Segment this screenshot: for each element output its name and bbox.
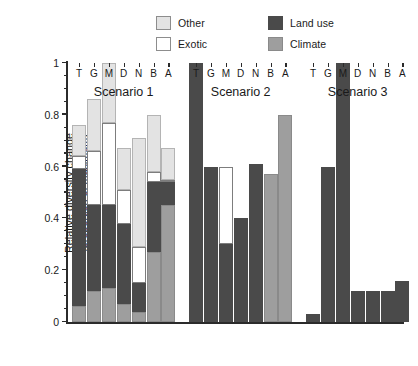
bar-scenario-2-M[interactable] (219, 167, 233, 322)
bar-segment-climate (278, 115, 292, 322)
x-axis-tick-label-G: G (90, 68, 98, 79)
x-axis-tick (79, 63, 80, 67)
bar-segment-landuse (204, 167, 218, 322)
bar-segment-other (87, 99, 101, 151)
x-axis-tick-label-B: B (267, 68, 274, 79)
bar-scenario-1-T[interactable] (72, 125, 86, 322)
bar-segment-landuse (117, 224, 131, 304)
x-axis-tick (256, 63, 257, 67)
bar-segment-other (161, 148, 175, 179)
legend-column-right: Land use Climate (268, 12, 334, 54)
x-axis-tick-label-T: T (310, 68, 316, 79)
bar-segment-landuse (306, 314, 320, 322)
y-axis-tick (62, 113, 68, 114)
x-axis-tick-label-T: T (193, 68, 199, 79)
legend-column-left: Other Exotic (156, 12, 207, 54)
y-axis-minor-tick (64, 152, 68, 153)
x-axis-tick-label-A: A (282, 68, 289, 79)
bar-scenario-2-B[interactable] (264, 174, 278, 322)
bar-scenario-1-G[interactable] (87, 99, 101, 322)
bar-scenario-2-N[interactable] (249, 164, 263, 322)
y-axis-minor-tick (64, 282, 68, 283)
y-axis-minor-tick (64, 256, 68, 257)
legend-swatch-exotic (156, 37, 171, 51)
y-axis-minor-tick (64, 75, 68, 76)
legend-swatch-climate (268, 37, 283, 51)
bar-segment-exotic (147, 172, 161, 182)
group-label-scenario-3: Scenario 3 (328, 85, 388, 99)
bar-segment-landuse (219, 244, 233, 322)
y-axis-minor-tick (64, 230, 68, 231)
bar-scenario-2-D[interactable] (234, 218, 248, 322)
legend-item-land-use: Land use (268, 12, 334, 33)
x-axis-tick (328, 63, 329, 67)
y-axis-tick (62, 165, 68, 166)
y-axis-tick (62, 217, 68, 218)
y-axis-tick (62, 62, 68, 63)
y-axis-tick-label: 1 (53, 57, 59, 69)
group-label-scenario-1: Scenario 1 (94, 85, 154, 99)
bar-scenario-2-T[interactable] (189, 63, 203, 322)
bar-scenario-1-B[interactable] (147, 115, 161, 322)
x-axis-tick (109, 63, 110, 67)
bar-scenario-3-T[interactable] (306, 314, 320, 322)
bar-segment-exotic (132, 247, 146, 283)
y-axis-minor-tick (64, 127, 68, 128)
group-label-scenario-2: Scenario 2 (211, 85, 271, 99)
x-axis-tick (94, 63, 95, 67)
x-axis-tick (388, 63, 389, 67)
plot-area: Relative diversity change (proportion of… (68, 63, 404, 322)
x-axis-tick-label-D: D (120, 68, 127, 79)
x-axis-tick (343, 63, 344, 67)
x-axis-tick (271, 63, 272, 67)
legend-label-land-use: Land use (290, 17, 334, 29)
legend-label-other: Other (178, 17, 205, 29)
legend-label-exotic: Exotic (178, 38, 207, 50)
y-axis-minor-tick (64, 101, 68, 102)
bar-scenario-3-N[interactable] (366, 291, 380, 322)
bar-scenario-1-N[interactable] (132, 138, 146, 322)
bar-scenario-1-D[interactable] (117, 148, 131, 322)
bar-segment-landuse (395, 281, 409, 322)
bar-segment-landuse (87, 205, 101, 290)
bar-scenario-3-D[interactable] (351, 291, 365, 322)
y-axis-minor-tick (64, 204, 68, 205)
bar-segment-climate (87, 291, 101, 322)
bar-segment-climate (264, 174, 278, 322)
bar-segment-landuse (249, 164, 263, 322)
y-axis-minor-tick (64, 88, 68, 89)
y-axis-minor-tick (64, 178, 68, 179)
bar-scenario-2-G[interactable] (204, 167, 218, 322)
x-axis-tick (124, 63, 125, 67)
x-axis-tick (168, 63, 169, 67)
bar-scenario-3-M[interactable] (336, 63, 350, 322)
bar-scenario-2-A[interactable] (278, 115, 292, 322)
bar-scenario-3-A[interactable] (395, 281, 409, 322)
bar-segment-exotic (87, 151, 101, 205)
x-axis-tick-label-G: G (324, 68, 332, 79)
x-axis-tick-label-N: N (252, 68, 259, 79)
x-axis-tick (402, 63, 403, 67)
bar-segment-climate (72, 306, 86, 322)
x-axis-tick (139, 63, 140, 67)
y-axis-tick (62, 321, 68, 322)
y-axis-minor-tick (64, 308, 68, 309)
x-axis-tick (226, 63, 227, 67)
bar-segment-climate (161, 205, 175, 322)
y-axis-tick-label: 0.8 (44, 109, 59, 121)
bar-segment-exotic (102, 123, 116, 206)
bar-segment-climate (117, 304, 131, 322)
bar-scenario-1-A[interactable] (161, 148, 175, 322)
chart-legend: Other Exotic Land use Climate (156, 12, 356, 54)
bar-segment-landuse (381, 291, 395, 322)
bar-scenario-3-G[interactable] (321, 167, 335, 322)
bar-segment-landuse (72, 169, 86, 306)
x-axis-tick-label-B: B (150, 68, 157, 79)
x-axis-tick (154, 63, 155, 67)
x-axis-tick-label-D: D (354, 68, 361, 79)
x-axis-tick (241, 63, 242, 67)
bar-scenario-3-B[interactable] (381, 291, 395, 322)
bar-scenario-1-M[interactable] (102, 63, 116, 322)
y-axis-tick-label: 0.2 (44, 264, 59, 276)
y-axis-tick-label: 0.6 (44, 161, 59, 173)
